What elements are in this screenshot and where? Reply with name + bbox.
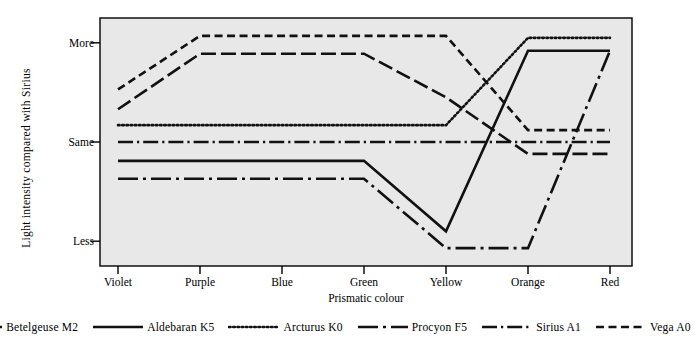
legend-label: Arcturus K0 xyxy=(283,321,356,333)
x-axis-tick-label: Red xyxy=(601,276,620,288)
x-axis-tick-label: Green xyxy=(350,276,378,288)
legend-item[interactable]: Vega A0 xyxy=(595,321,695,333)
legend-label: Procyon F5 xyxy=(412,321,481,333)
legend-line-swatch xyxy=(481,321,533,333)
legend-label: Aldebaran K5 xyxy=(147,321,228,333)
legend-line-swatch xyxy=(92,321,144,333)
x-axis-tick-label: Yellow xyxy=(430,276,463,288)
x-axis-tick-label: Blue xyxy=(271,276,293,288)
x-axis-title: Prismatic colour xyxy=(328,292,404,304)
legend-label: Vega A0 xyxy=(650,321,695,333)
legend-line-swatch xyxy=(0,321,3,333)
chart-legend: Betelgeuse M2Aldebaran K5Arcturus K0Proc… xyxy=(0,316,656,338)
legend-item[interactable]: Aldebaran K5 xyxy=(92,321,228,333)
legend-line-swatch xyxy=(595,321,647,333)
legend-line-swatch xyxy=(357,321,409,333)
legend-item[interactable]: Sirius A1 xyxy=(481,321,595,333)
legend-line-swatch xyxy=(228,321,280,333)
legend-item[interactable]: Arcturus K0 xyxy=(228,321,356,333)
legend-label: Sirius A1 xyxy=(536,321,595,333)
legend-item[interactable]: Procyon F5 xyxy=(357,321,481,333)
x-axis-tick-label: Violet xyxy=(104,276,132,288)
legend-item[interactable]: Betelgeuse M2 xyxy=(0,321,92,333)
x-axis-tick-label: Purple xyxy=(185,276,215,288)
x-axis-tick-label: Orange xyxy=(511,276,545,288)
legend-label: Betelgeuse M2 xyxy=(6,321,92,333)
